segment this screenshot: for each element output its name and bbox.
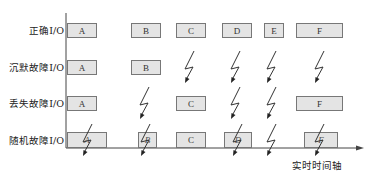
lightning-bolt-icon <box>267 51 276 83</box>
lightning-bolt-icon <box>267 124 276 156</box>
lightning-bolt-icon <box>185 51 194 83</box>
lightning-bolt-icon <box>267 87 276 119</box>
lightning-bolt-icon <box>231 87 240 119</box>
lightning-bolt-icon <box>231 51 240 83</box>
lightning-bolt-icon <box>83 124 92 156</box>
time-axis-label: 实时时间轴 <box>292 158 342 172</box>
fault-bolts-layer <box>0 0 372 181</box>
lightning-bolt-icon <box>140 87 149 119</box>
lightning-bolt-icon <box>141 124 150 156</box>
io-fault-diagram: 正确I/O 沉默故障I/O 丢失故障I/O 随机故障I/O ABCDEFABAC… <box>0 0 372 181</box>
lightning-bolt-icon <box>233 124 242 156</box>
lightning-bolt-icon <box>315 124 324 156</box>
lightning-bolt-icon <box>315 51 324 83</box>
